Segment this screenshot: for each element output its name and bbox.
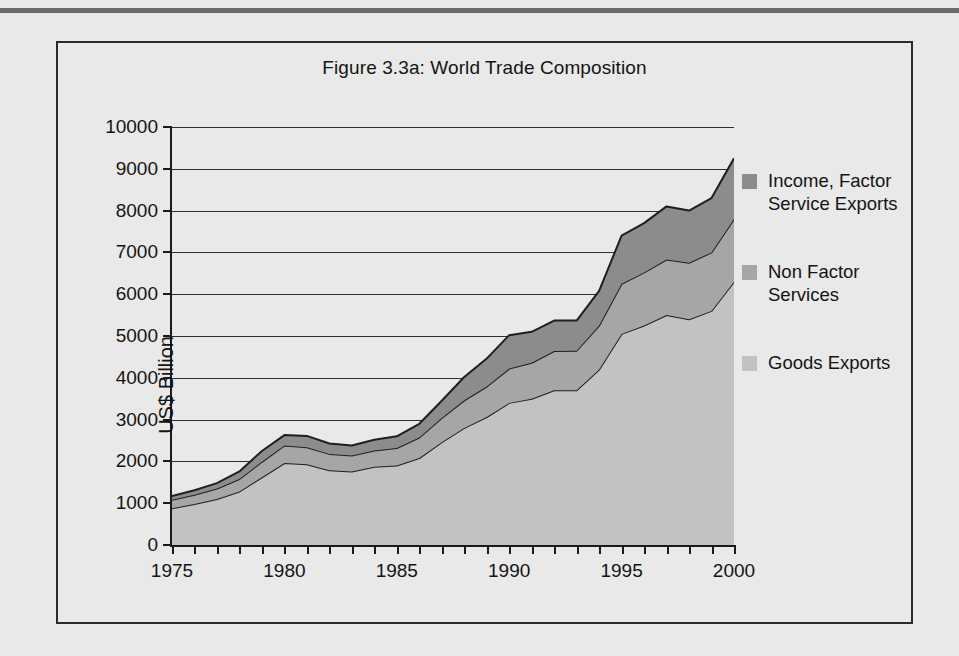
x-axis-tick-mark <box>419 545 421 554</box>
x-axis-tick-mark <box>734 545 736 554</box>
x-axis-tick-mark <box>172 545 174 554</box>
x-axis-tick-mark <box>712 545 714 554</box>
x-axis-tick-mark <box>644 545 646 554</box>
x-axis-tick-mark <box>194 545 196 554</box>
legend-item[interactable]: Income, FactorService Exports <box>742 170 910 215</box>
x-axis-tick-mark <box>374 545 376 554</box>
x-axis-tick-mark <box>667 545 669 554</box>
legend: Income, FactorService ExportsNon FactorS… <box>742 170 910 421</box>
chart-title: Figure 3.3a: World Trade Composition <box>58 57 911 79</box>
y-axis-tick-label: 1000 <box>116 492 172 514</box>
x-axis-tick-mark <box>509 545 511 554</box>
x-axis-tick-label: 2000 <box>713 560 755 582</box>
legend-swatch-icon <box>742 265 757 280</box>
x-axis-tick-label: 1990 <box>488 560 530 582</box>
y-axis: 0100020003000400050006000700080009000100… <box>172 127 734 545</box>
x-axis-tick-mark <box>307 545 309 554</box>
y-axis-tick-label: 0 <box>147 534 172 556</box>
y-axis-label: US$ Billion <box>155 336 178 434</box>
legend-swatch-icon <box>742 356 757 371</box>
y-axis-tick-label: 10000 <box>105 116 172 138</box>
legend-item[interactable]: Non FactorServices <box>742 261 910 306</box>
legend-label: Income, FactorService Exports <box>768 170 898 215</box>
x-axis-tick-mark <box>689 545 691 554</box>
y-axis-tick-label: 8000 <box>116 200 172 222</box>
x-axis-tick-mark <box>442 545 444 554</box>
x-axis-tick-mark <box>464 545 466 554</box>
x-axis-tick-mark <box>397 545 399 554</box>
x-axis-tick-mark <box>217 545 219 554</box>
x-axis-tick-mark <box>532 545 534 554</box>
legend-label: Non FactorServices <box>768 261 860 306</box>
x-axis-tick-label: 1975 <box>151 560 193 582</box>
top-horizontal-rule <box>0 8 959 13</box>
x-axis-tick-mark <box>554 545 556 554</box>
y-axis-tick-label: 9000 <box>116 158 172 180</box>
x-axis-tick-label: 1995 <box>600 560 642 582</box>
x-axis-tick-mark <box>599 545 601 554</box>
x-axis-tick-mark <box>239 545 241 554</box>
x-axis-tick-mark <box>329 545 331 554</box>
legend-label: Goods Exports <box>768 352 890 375</box>
plot-area: 0100020003000400050006000700080009000100… <box>170 127 734 547</box>
x-axis-tick-mark <box>487 545 489 554</box>
x-axis-tick-mark <box>622 545 624 554</box>
x-axis-tick-mark <box>577 545 579 554</box>
y-axis-tick-label: 7000 <box>116 241 172 263</box>
x-axis-tick-label: 1985 <box>376 560 418 582</box>
x-axis-tick-mark <box>262 545 264 554</box>
x-axis-tick-label: 1980 <box>263 560 305 582</box>
legend-item[interactable]: Goods Exports <box>742 352 910 375</box>
y-axis-tick-label: 6000 <box>116 283 172 305</box>
figure-frame: Figure 3.3a: World Trade Composition 010… <box>56 41 913 624</box>
x-axis-tick-mark <box>352 545 354 554</box>
legend-swatch-icon <box>742 174 757 189</box>
x-axis-tick-mark <box>284 545 286 554</box>
y-axis-tick-label: 2000 <box>116 450 172 472</box>
